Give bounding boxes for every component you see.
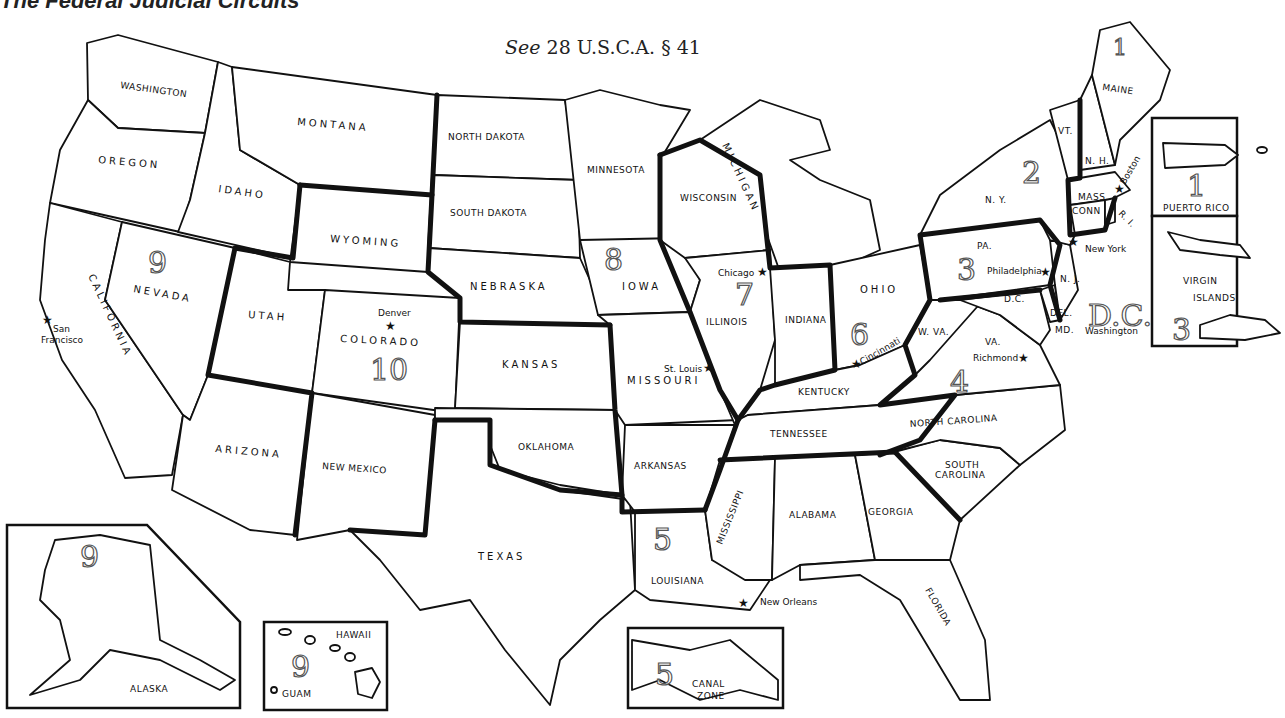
label-georgia: GEORGIA [868, 507, 914, 517]
star-icon: ★ [703, 361, 714, 375]
circuit-3-label: 3 [957, 252, 976, 287]
city-san-francisco-1: San [53, 324, 70, 334]
city-boston: Boston [1118, 154, 1142, 186]
circuit-2-label: 2 [1022, 155, 1041, 190]
circuit-10-label: 10 [370, 352, 408, 387]
circuit-4-label: 4 [950, 364, 969, 399]
star-icon: ★ [1018, 351, 1029, 365]
circuit-dc-label: D.C. [1088, 298, 1152, 333]
label-canal-zone-1: CANAL [692, 679, 725, 689]
label-alaska: ALASKA [130, 684, 168, 694]
city-philadelphia: Philadelphia [987, 266, 1042, 276]
circuit-6-label: 6 [850, 317, 869, 352]
label-oklahoma: OKLAHOMA [518, 442, 574, 452]
state-florida[interactable] [800, 560, 990, 700]
label-new-jersey: N. J. [1060, 274, 1080, 284]
label-dc-state: D.C. [1004, 294, 1025, 304]
star-icon: ★ [757, 265, 768, 279]
label-connecticut: CONN [1072, 206, 1101, 216]
label-pennsylvania: PA. [977, 241, 992, 251]
star-icon: ★ [1068, 235, 1079, 249]
label-south-dakota: SOUTH DAKOTA [450, 208, 527, 218]
label-massachusetts: MASS. [1078, 192, 1109, 202]
label-south-carolina-2: CAROLINA [935, 470, 986, 480]
circuit-1-label: 1 [1187, 168, 1206, 203]
label-arkansas: ARKANSAS [634, 461, 687, 471]
label-illinois: ILLINOIS [706, 317, 748, 327]
circuit-8-label: 8 [604, 242, 623, 277]
label-virgin-islands-1: VIRGIN [1183, 276, 1217, 286]
label-delaware: DEL. [1050, 308, 1073, 318]
star-icon: ★ [738, 596, 749, 610]
label-wisconsin: WISCONSIN [680, 193, 737, 203]
star-icon: ★ [42, 313, 53, 327]
label-kansas: KANSAS [502, 359, 560, 370]
label-kentucky: KENTUCKY [798, 387, 850, 397]
label-new-hampshire: N. H. [1085, 156, 1109, 166]
label-west-virginia: W. VA. [918, 327, 949, 337]
label-new-york: N. Y. [985, 195, 1007, 205]
label-iowa: IOWA [622, 281, 661, 292]
circuit-9-label: 9 [148, 245, 167, 280]
label-virginia: VA. [985, 337, 1001, 347]
star-icon: ★ [1040, 265, 1051, 279]
label-vermont: VT. [1058, 126, 1073, 136]
label-rhode-island: R. I. [1117, 208, 1138, 229]
label-missouri: MISSOURI [627, 375, 700, 386]
label-louisiana: LOUISIANA [651, 576, 704, 586]
label-alabama: ALABAMA [789, 510, 837, 520]
circuit-9-alaska-label: 9 [80, 539, 99, 574]
circuit-3-vi-label: 3 [1172, 312, 1191, 347]
circuit-7-label: 7 [735, 277, 754, 312]
city-st-louis: St. Louis [664, 364, 703, 374]
label-nebraska: NEBRASKA [470, 281, 548, 292]
circuit-5-cz-label: 5 [655, 657, 674, 692]
label-tennessee: TENNESSEE [769, 429, 828, 439]
inset-puerto-rico[interactable] [1152, 118, 1267, 216]
circuit-9-hawaii-label: 9 [291, 649, 310, 684]
label-maryland: MD. [1055, 325, 1074, 335]
label-hawaii: HAWAII [336, 630, 371, 640]
circuit-1-maine-label: 1 [1113, 35, 1127, 60]
city-san-francisco-2: Francisco [41, 335, 84, 345]
city-new-york: New York [1085, 244, 1127, 254]
circuit-map: WASHINGTON OREGON CALIFORNIA NEVADA IDAH… [0, 0, 1285, 718]
circuit-5-label: 5 [653, 522, 672, 557]
label-minnesota: MINNESOTA [587, 165, 645, 175]
label-guam: GUAM [282, 689, 311, 699]
label-north-dakota: NORTH DAKOTA [448, 132, 525, 142]
label-puerto-rico: PUERTO RICO [1163, 203, 1230, 213]
state-indiana[interactable] [770, 265, 835, 385]
label-canal-zone-2: ZONE [697, 691, 725, 701]
label-virgin-islands-2: ISLANDS [1193, 293, 1236, 303]
star-icon: ★ [385, 319, 396, 333]
city-denver: Denver [378, 308, 411, 318]
city-richmond: Richmond [973, 353, 1018, 363]
inset-alaska[interactable] [7, 525, 240, 708]
label-south-carolina-1: SOUTH [945, 460, 979, 470]
city-new-orleans: New Orleans [760, 597, 818, 607]
label-ohio: OHIO [860, 284, 898, 295]
label-indiana: INDIANA [785, 315, 827, 325]
state-wyoming[interactable] [290, 185, 432, 272]
label-texas: TEXAS [477, 551, 525, 562]
